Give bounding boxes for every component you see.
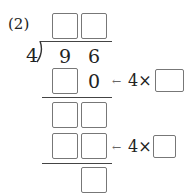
dividend-ones: 6	[88, 46, 100, 66]
subtraction-line-2	[42, 163, 112, 164]
problem-label: (2)	[8, 14, 29, 34]
quotient-ones-box[interactable]	[81, 13, 107, 39]
dividend-tens: 9	[59, 46, 71, 66]
quotient-tens-box[interactable]	[52, 13, 78, 39]
step1-tens-box[interactable]	[52, 68, 78, 94]
step2-multiplier-box[interactable]	[153, 135, 176, 158]
step1-multiplier-text: 4×	[128, 72, 152, 90]
step1-ones-digit: 0	[88, 71, 100, 91]
step2-tens-box[interactable]	[52, 133, 78, 159]
step2-ones-box[interactable]	[81, 133, 107, 159]
remainder-tens-box[interactable]	[52, 102, 78, 128]
divisor: 4	[26, 45, 38, 65]
step2-multiplier-text: 4×	[128, 138, 152, 156]
step2-arrow-icon: ←	[112, 141, 121, 154]
division-bar	[40, 41, 112, 42]
final-remainder-box[interactable]	[81, 167, 107, 193]
remainder-ones-box[interactable]	[81, 102, 107, 128]
step1-arrow-icon: ←	[112, 75, 121, 88]
subtraction-line-1	[42, 97, 112, 98]
step1-multiplier-box[interactable]	[155, 69, 184, 92]
